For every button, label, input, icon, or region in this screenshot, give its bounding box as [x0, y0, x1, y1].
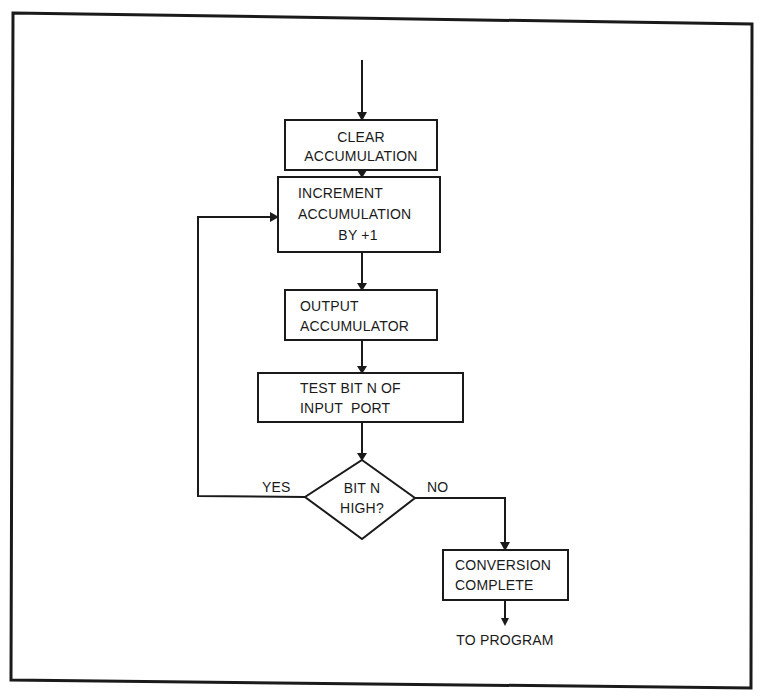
arrow-output-to-test	[357, 340, 367, 374]
arrow-no-to-complete	[415, 498, 510, 551]
outer-frame	[11, 13, 752, 688]
arrow-increment-to-output	[357, 252, 367, 291]
exit-label-to-program: TO PROGRAM	[456, 632, 553, 648]
node-increment-line-2: ACCUMULATION	[298, 206, 411, 222]
node-complete-line-1: CONVERSION	[455, 557, 551, 573]
node-increment-line-1: INCREMENT	[298, 185, 383, 201]
node-clear-line-2: ACCUMULATION	[304, 148, 417, 164]
node-output-accumulator: OUTPUT ACCUMULATOR	[285, 290, 437, 340]
arrow-yes-loop-to-increment	[198, 212, 305, 497]
exit-arrow	[501, 600, 509, 626]
flowchart-canvas: CLEAR ACCUMULATION INCREMENT ACCUMULATIO…	[0, 0, 763, 700]
node-decision-line-1: BIT N	[344, 480, 381, 496]
node-increment-accumulation: INCREMENT ACCUMULATION BY +1	[278, 177, 440, 252]
node-conversion-complete: CONVERSION COMPLETE	[443, 550, 568, 600]
node-test-line-2: INPUT PORT	[300, 400, 391, 416]
node-output-line-2: ACCUMULATOR	[300, 318, 409, 334]
node-increment-line-3: BY +1	[338, 227, 377, 243]
node-output-line-1: OUTPUT	[300, 298, 359, 314]
edge-label-yes: YES	[262, 479, 291, 495]
node-test-bit: TEST BIT N OF INPUT PORT	[258, 373, 463, 422]
arrow-test-to-decision	[357, 422, 367, 461]
node-clear-accumulation: CLEAR ACCUMULATION	[285, 120, 437, 170]
node-complete-line-2: COMPLETE	[455, 577, 534, 593]
edge-label-no: NO	[427, 479, 448, 495]
entry-arrow	[357, 60, 367, 121]
node-decision-line-2: HIGH?	[340, 500, 384, 516]
node-clear-line-1: CLEAR	[337, 129, 385, 145]
node-test-line-1: TEST BIT N OF	[300, 380, 401, 396]
node-decision-bit-high: BIT N HIGH?	[305, 460, 415, 539]
